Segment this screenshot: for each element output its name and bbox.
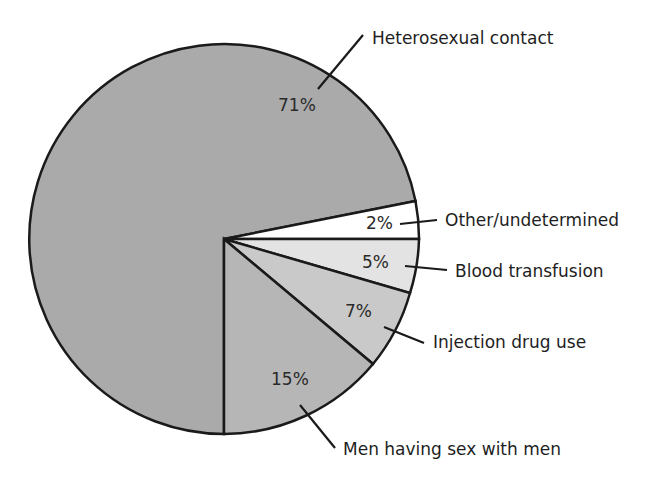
pct-heterosexual: 71% — [278, 95, 316, 115]
label-other-undetermined: Other/undetermined — [445, 210, 619, 230]
pct-msm: 15% — [271, 369, 309, 389]
pct-other: 2% — [366, 213, 393, 233]
leader-line-msm — [300, 405, 335, 448]
label-blood-transfusion: Blood transfusion — [455, 261, 604, 281]
label-heterosexual-contact: Heterosexual contact — [372, 28, 554, 48]
pct-blood: 5% — [362, 252, 389, 272]
pct-injection: 7% — [345, 301, 372, 321]
pie-chart: 71% 2% 5% 7% 15% Heterosexual contact Ot… — [0, 0, 660, 477]
label-men-having-sex-with-men: Men having sex with men — [343, 439, 561, 459]
label-injection-drug-use: Injection drug use — [433, 332, 586, 352]
